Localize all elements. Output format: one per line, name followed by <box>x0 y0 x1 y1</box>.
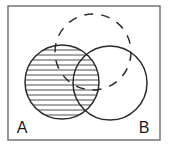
venn-diagram-figure: A B <box>0 0 169 148</box>
set-a-label: A <box>17 119 28 136</box>
venn-diagram-canvas: A B <box>0 0 169 148</box>
set-b-label: B <box>139 119 150 136</box>
